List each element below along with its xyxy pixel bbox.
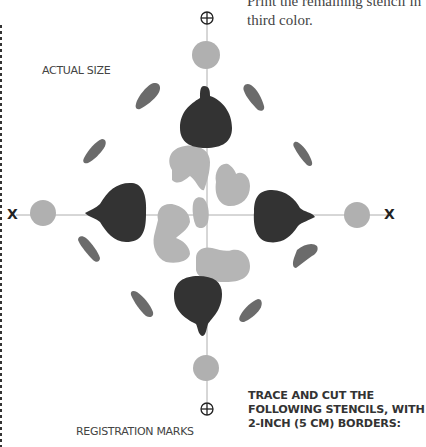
bottom-dot — [193, 355, 219, 381]
leaf-low-left — [78, 236, 100, 261]
leaf-low-right — [293, 244, 318, 268]
crosshair-top-icon — [201, 12, 213, 24]
registration-marks-label: REGISTRATION MARKS — [76, 425, 194, 438]
leaf-mid-left — [83, 139, 106, 163]
leaf-top-left — [136, 83, 160, 109]
leaf-top-right — [243, 84, 264, 111]
instructions-line-3: 2-INCH (5 CM) BORDERS: — [248, 417, 425, 431]
right-drop — [254, 190, 315, 242]
crosshair-bottom-icon — [201, 403, 213, 415]
instructions-line-1: TRACE AND CUT THE — [248, 389, 425, 403]
instructions-line-2: FOLLOWING STENCILS, WITH — [248, 403, 425, 417]
top-dot — [192, 41, 220, 69]
actual-size-label: ACTUAL SIZE — [42, 64, 110, 77]
right-dot — [344, 202, 370, 228]
top-drop — [180, 86, 232, 148]
bottom-drop — [174, 276, 222, 336]
x-mark-left: X — [7, 206, 18, 222]
leaf-mid-right — [293, 142, 312, 166]
x-mark-right: X — [384, 206, 395, 222]
leaf-bottom-left — [131, 291, 153, 317]
stencil-page: Print the remaining stencil in third col… — [0, 0, 426, 447]
instructions-heading: TRACE AND CUT THE FOLLOWING STENCILS, WI… — [248, 389, 425, 431]
center-flower-light — [154, 146, 251, 282]
left-dot — [30, 200, 56, 226]
left-drop — [85, 183, 146, 242]
leaf-bottom-right — [239, 299, 262, 322]
